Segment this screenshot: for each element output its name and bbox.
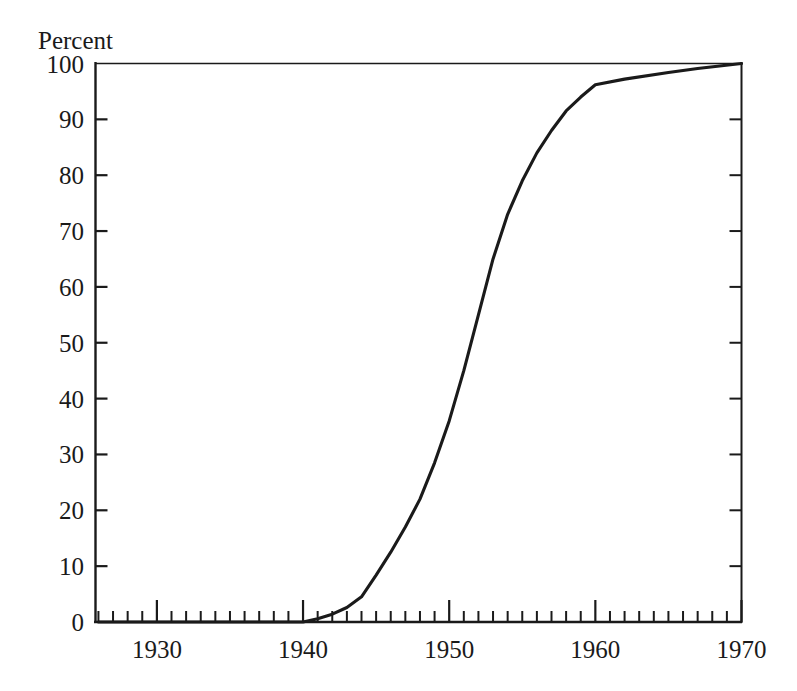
y-tick-label: 0 <box>72 609 85 636</box>
x-axis-tick-labels: 19301940195019601970 <box>132 636 767 663</box>
y-axis-tick-labels: 0102030405060708090100 <box>47 51 85 637</box>
y-tick-label: 70 <box>59 218 84 245</box>
data-series-line <box>98 64 741 623</box>
right-axis-ticks <box>730 119 742 566</box>
y-tick-label: 20 <box>59 497 84 524</box>
x-tick-label: 1930 <box>132 636 182 663</box>
y-tick-label: 30 <box>59 441 84 468</box>
x-axis-minor-ticks <box>98 611 726 622</box>
x-tick-label: 1970 <box>717 636 767 663</box>
chart-figure: Percent 0102030405060708090100 193019401… <box>0 0 797 691</box>
y-tick-label: 40 <box>59 386 84 413</box>
y-tick-label: 50 <box>59 330 84 357</box>
x-tick-label: 1950 <box>424 636 474 663</box>
y-tick-label: 10 <box>59 553 84 580</box>
y-tick-label: 100 <box>47 51 85 78</box>
y-tick-label: 80 <box>59 162 84 189</box>
y-axis-ticks <box>96 119 108 566</box>
x-tick-label: 1940 <box>278 636 328 663</box>
line-chart: Percent 0102030405060708090100 193019401… <box>0 0 797 691</box>
x-tick-label: 1960 <box>570 636 620 663</box>
y-tick-label: 90 <box>59 106 84 133</box>
y-tick-label: 60 <box>59 274 84 301</box>
